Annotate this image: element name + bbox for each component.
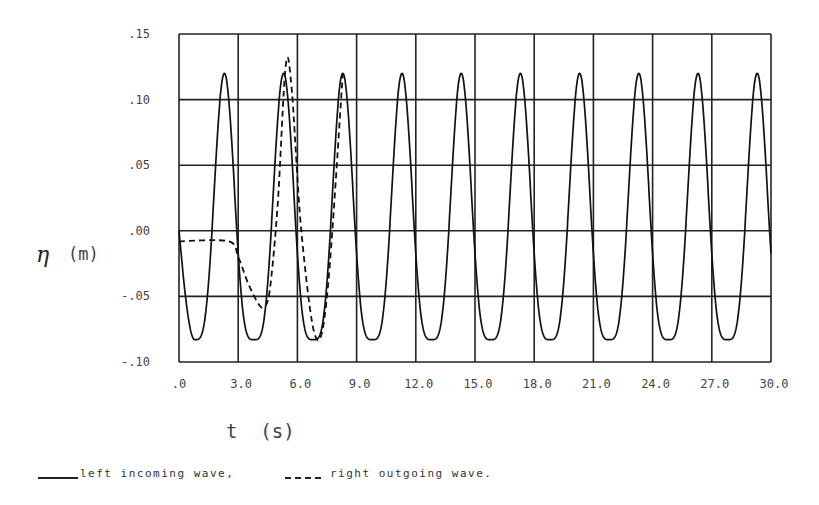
y-tick-label: .15 (128, 27, 150, 41)
y-axis-ticks: .15.10.05.00-.05-.10 (121, 27, 150, 369)
y-tick-label: .00 (128, 224, 150, 238)
y-axis-symbol: η (36, 242, 49, 267)
x-tick-label: 6.0 (290, 377, 312, 391)
x-tick-label: 9.0 (349, 377, 371, 391)
y-tick-label: -.05 (121, 289, 150, 303)
x-tick-label: 3.0 (230, 377, 252, 391)
x-axis-ticks: .03.06.09.012.015.018.021.024.027.030.0 (172, 377, 789, 391)
x-tick-label: 12.0 (404, 377, 433, 391)
y-tick-label: .05 (128, 158, 150, 172)
y-tick-label: -.10 (121, 355, 150, 369)
wave-elevation-chart: .15.10.05.00-.05-.10 .03.06.09.012.015.0… (0, 0, 819, 505)
y-axis-unit: (m) (68, 244, 99, 264)
legend-dashed-label: right outgoing wave. (330, 467, 492, 480)
x-tick-label: 15.0 (464, 377, 493, 391)
plot-grid (179, 34, 771, 362)
x-tick-label: .0 (172, 377, 186, 391)
x-tick-label: 30.0 (760, 377, 789, 391)
x-tick-label: 21.0 (582, 377, 611, 391)
x-tick-label: 18.0 (523, 377, 552, 391)
x-axis-label: t (s) (226, 420, 295, 442)
legend: left incoming wave, right outgoing wave. (38, 467, 492, 480)
legend-solid-label: left incoming wave, (80, 467, 234, 480)
y-tick-label: .10 (128, 93, 150, 107)
x-tick-label: 27.0 (700, 377, 729, 391)
x-tick-label: 24.0 (641, 377, 670, 391)
